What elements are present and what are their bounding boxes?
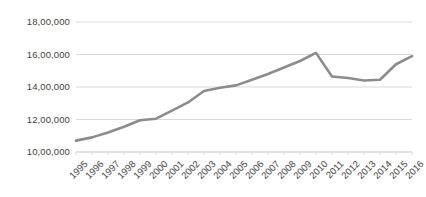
y-axis-tick-label: 12,00,000 (27, 114, 70, 125)
gridlines-group (76, 22, 412, 152)
y-axis-tick-label: 18,00,000 (27, 16, 70, 27)
data-series-line (76, 53, 412, 141)
y-axis-tick-label: 14,00,000 (27, 81, 70, 92)
y-axis-tick-label: 16,00,000 (27, 49, 70, 60)
y-axis-tick-label: 10,00,000 (27, 146, 70, 157)
